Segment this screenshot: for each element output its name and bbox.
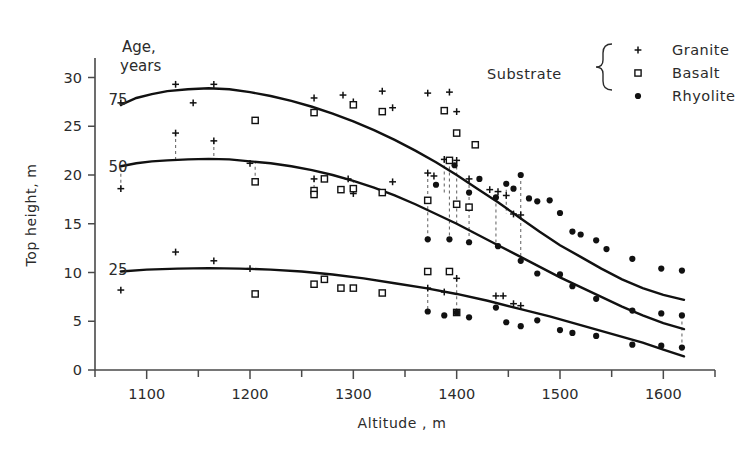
data-point-granite	[172, 81, 179, 88]
curve-age-label-75: 75	[108, 91, 127, 109]
data-point-rhyolite	[446, 236, 452, 242]
data-point-rhyolite	[510, 186, 516, 192]
curve-age-label-50: 50	[108, 158, 127, 176]
data-point-rhyolite	[441, 312, 447, 318]
x-tick-label-1600: 1600	[645, 386, 682, 402]
data-point-rhyolite	[433, 182, 439, 188]
data-point-rhyolite	[518, 323, 524, 329]
data-point-granite	[495, 188, 502, 195]
y-tick-label-30: 30	[64, 70, 82, 86]
y-tick-label-25: 25	[64, 118, 82, 134]
data-point-basalt	[338, 285, 344, 291]
data-point-basalt	[466, 204, 472, 210]
data-point-rhyolite	[476, 176, 482, 182]
data-point-basalt	[454, 201, 460, 207]
data-point-granite	[424, 170, 431, 177]
data-point-basalt	[252, 117, 258, 123]
data-point-basalt	[252, 179, 258, 185]
data-point-rhyolite	[679, 344, 685, 350]
data-point-basalt	[252, 291, 258, 297]
data-point-basalt	[425, 268, 431, 274]
data-point-rhyolite	[466, 239, 472, 245]
y-tick-label-20: 20	[64, 167, 82, 183]
data-point-granite	[389, 178, 396, 185]
data-point-basalt	[446, 157, 452, 163]
data-point-rhyolite	[534, 317, 540, 323]
data-point-basalt	[379, 290, 385, 296]
data-point-basalt	[338, 187, 344, 193]
x-tick-label-1400: 1400	[438, 386, 475, 402]
legend-label-granite: Granite	[672, 42, 729, 58]
data-point-rhyolite	[526, 195, 532, 201]
data-point-rhyolite	[593, 296, 599, 302]
y-axis-title: Top height, m	[23, 163, 39, 267]
data-point-granite	[486, 186, 493, 193]
data-point-rhyolite	[503, 181, 509, 187]
data-point-rhyolite	[547, 197, 553, 203]
data-point-granite	[500, 293, 507, 300]
data-point-rhyolite	[569, 228, 575, 234]
x-tick-label-1200: 1200	[232, 386, 269, 402]
data-point-granite	[424, 90, 431, 97]
data-point-granite	[172, 249, 179, 256]
data-point-rhyolite	[452, 162, 458, 168]
data-point-basalt	[311, 191, 317, 197]
data-point-basalt	[441, 108, 447, 114]
data-point-rhyolite	[603, 246, 609, 252]
data-point-granite	[117, 287, 124, 294]
data-point-granite	[446, 89, 453, 96]
data-point-rhyolite	[493, 305, 499, 311]
data-point-granite	[424, 285, 431, 292]
data-point-granite	[340, 92, 347, 99]
data-point-granite	[453, 275, 460, 282]
legend-title: Substrate	[487, 66, 562, 82]
data-point-granite	[117, 185, 124, 192]
data-point-rhyolite	[658, 266, 664, 272]
data-point-granite	[210, 137, 217, 144]
data-point-rhyolite	[679, 267, 685, 273]
data-point-granite	[389, 104, 396, 111]
data-point-granite	[190, 99, 197, 106]
data-point-rhyolite	[578, 231, 584, 237]
plot-axes	[95, 58, 715, 370]
data-point-rhyolite	[454, 309, 460, 315]
data-point-basalt	[446, 268, 452, 274]
data-point-rhyolite	[425, 236, 431, 242]
data-point-rhyolite	[503, 319, 509, 325]
x-axis-title: Altitude , m	[358, 415, 447, 431]
curve-age-25	[121, 268, 684, 356]
data-point-basalt	[350, 102, 356, 108]
x-tick-label-1100: 1100	[128, 386, 165, 402]
legend-marker-granite	[635, 47, 642, 54]
data-point-basalt	[321, 276, 327, 282]
curve-age-label-25: 25	[108, 261, 127, 279]
data-point-rhyolite	[629, 256, 635, 262]
data-point-granite	[431, 173, 438, 180]
y-tick-label-10: 10	[64, 265, 82, 281]
data-point-granite	[247, 265, 254, 272]
data-point-basalt	[321, 176, 327, 182]
data-point-basalt	[350, 285, 356, 291]
data-point-rhyolite	[629, 342, 635, 348]
data-point-rhyolite	[493, 194, 499, 200]
data-point-rhyolite	[569, 283, 575, 289]
data-point-basalt	[311, 281, 317, 287]
data-point-rhyolite	[658, 343, 664, 349]
data-point-rhyolite	[593, 333, 599, 339]
scatter-plot-canvas: 302520151050110012001300140015001600Alti…	[0, 0, 755, 456]
data-point-granite	[493, 293, 500, 300]
data-point-granite	[441, 289, 448, 296]
data-point-rhyolite	[466, 189, 472, 195]
data-point-granite	[453, 108, 460, 115]
age-heading-line2: years	[120, 57, 161, 75]
data-point-basalt	[379, 109, 385, 115]
y-tick-label-5: 5	[73, 313, 82, 329]
data-point-rhyolite	[557, 327, 563, 333]
data-point-rhyolite	[518, 172, 524, 178]
data-point-rhyolite	[557, 210, 563, 216]
chart-figure: 302520151050110012001300140015001600Alti…	[0, 0, 755, 456]
data-point-granite	[503, 192, 510, 199]
data-point-granite	[311, 95, 318, 102]
data-point-basalt	[311, 110, 317, 116]
data-point-rhyolite	[679, 312, 685, 318]
